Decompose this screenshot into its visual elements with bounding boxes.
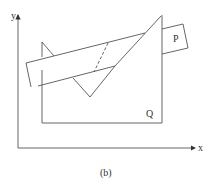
shape-p-band [26,33,145,87]
figure-caption: (b) [100,167,112,179]
x-axis-label: x [198,142,203,153]
label-q: Q [146,108,154,119]
y-axis-label: y [11,10,16,21]
label-p: P [173,33,179,44]
hidden-edge-dashed [94,43,108,72]
diagram-canvas: y x P Q (b) [0,0,213,188]
